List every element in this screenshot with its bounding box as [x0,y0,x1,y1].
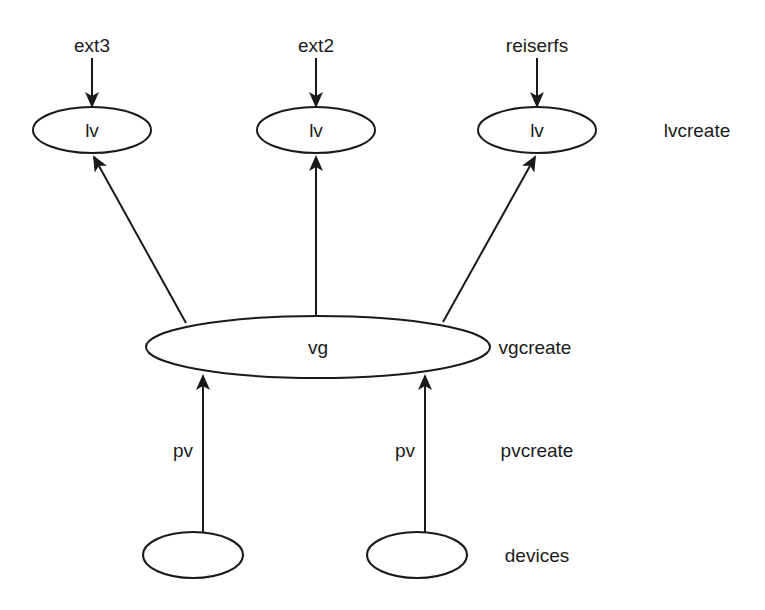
layer-label-vgcreate: vgcreate [499,337,572,358]
layer-label-lvcreate: lvcreate [664,120,731,141]
lv-node-3: lv [478,107,596,153]
device-node-1 [143,532,243,578]
layer-label-pvcreate: pvcreate [501,440,574,461]
vg-label: vg [308,337,328,358]
device-node-2 [367,532,467,578]
lv-label-1: lv [85,120,99,141]
filesystem-label-ext3: ext3 [74,35,110,56]
lv-label-3: lv [530,120,544,141]
arrow-vg-to-lv-3 [443,157,535,322]
layer-label-devices: devices [505,545,569,566]
lv-node-1: lv [33,107,151,153]
vg-node: vg [146,316,490,378]
pv-label-2: pv [395,440,416,461]
lvm-diagram: ext3 ext2 reiserfs lv lv lv lvcreate vg … [0,0,765,610]
filesystem-label-ext2: ext2 [298,35,334,56]
filesystem-label-reiserfs: reiserfs [506,35,568,56]
lv-label-2: lv [309,120,323,141]
pv-label-1: pv [173,440,194,461]
lv-node-2: lv [257,107,375,153]
arrow-vg-to-lv-1 [94,157,186,323]
